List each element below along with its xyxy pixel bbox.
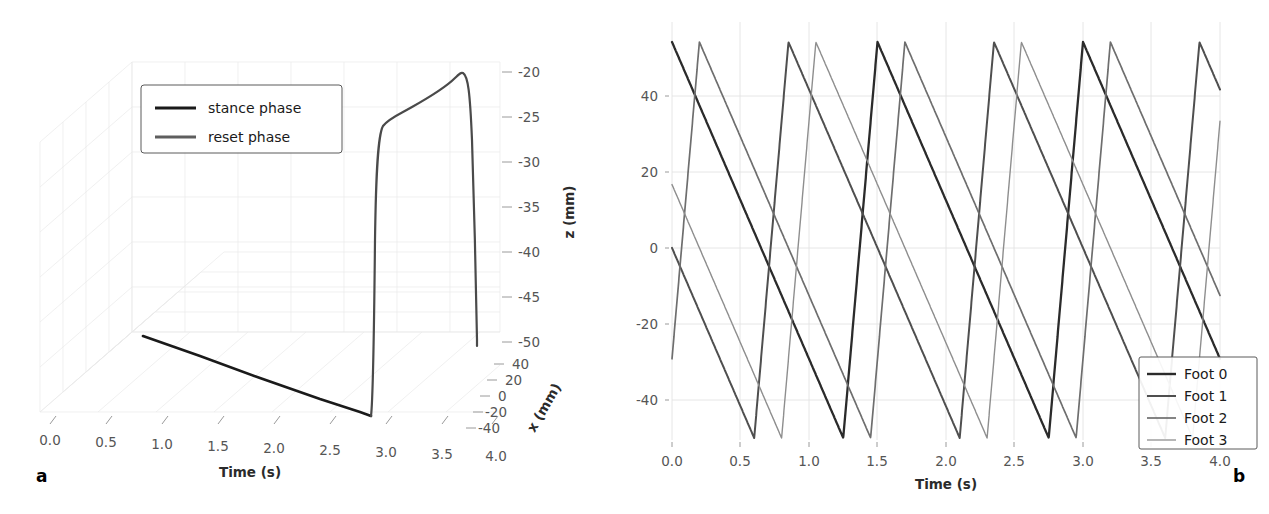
panel-b-xtick-5: 2.5 bbox=[1003, 453, 1024, 469]
panel-b-yaxis: 40 20 0 -20 -40 Foot x-coordinate (mm) bbox=[620, 88, 669, 408]
panel-b-xaxis-title: Time (s) bbox=[915, 476, 977, 492]
panel-a-xaxis-title: Time (s) bbox=[219, 464, 281, 480]
panel-a-zaxis-title: z (mm) bbox=[561, 185, 577, 238]
panel-b-legend-label-foot-1: Foot 1 bbox=[1184, 388, 1228, 404]
panel-a-depthtick-3: -20 bbox=[485, 404, 507, 420]
panel-b-ytick-2: 0 bbox=[649, 240, 658, 256]
panel-b-ytick-3: -20 bbox=[636, 316, 658, 332]
panel-b-legend: Foot 0 Foot 1 Foot 2 Foot 3 bbox=[1139, 357, 1257, 449]
panel-a-zaxis: -20 -25 -30 -35 -40 -45 -50 z (mm) bbox=[502, 64, 577, 350]
panel-a-xtick-2: 1.0 bbox=[151, 436, 172, 452]
panel-a-legend-label-reset: reset phase bbox=[208, 129, 290, 145]
panel-b-foot-coordinates: 40 20 0 -20 -40 Foot x-coordinate (mm) 0… bbox=[620, 0, 1269, 514]
panel-b-xtick-0: 0.0 bbox=[661, 453, 682, 469]
panel-b-xtick-1: 0.5 bbox=[729, 453, 750, 469]
panel-a-xtick-8: 4.0 bbox=[485, 448, 506, 464]
panel-a-3d-trajectory: 0.0 0.5 1.0 1.5 2.0 2.5 3.0 3.5 4.0 Time… bbox=[0, 0, 620, 514]
panel-a-depth-axis-title: x (mm) bbox=[523, 380, 564, 435]
panel-a-xtick-1: 0.5 bbox=[95, 434, 116, 450]
panel-a-ztick-5: -45 bbox=[518, 289, 540, 305]
panel-a-xtick-6: 3.0 bbox=[375, 444, 396, 460]
panel-a-depthtick-1: 20 bbox=[505, 372, 522, 388]
panel-b-ytick-4: -40 bbox=[636, 392, 658, 408]
panel-a-legend-label-stance: stance phase bbox=[208, 100, 301, 116]
panel-b-legend-label-foot-2: Foot 2 bbox=[1184, 410, 1228, 426]
panel-b-xtick-2: 1.0 bbox=[798, 453, 819, 469]
panel-b-legend-label-foot-0: Foot 0 bbox=[1184, 366, 1228, 382]
panel-a-legend: stance phase reset phase bbox=[141, 85, 342, 153]
panel-a-xtick-5: 2.5 bbox=[319, 442, 340, 458]
panel-a-label: a bbox=[36, 466, 47, 486]
panel-a-xtick-3: 1.5 bbox=[207, 438, 228, 454]
panel-a-ztick-4: -40 bbox=[518, 244, 540, 260]
figure-container: 0.0 0.5 1.0 1.5 2.0 2.5 3.0 3.5 4.0 Time… bbox=[0, 0, 1269, 514]
panel-a-depthtick-2: 0 bbox=[498, 388, 507, 404]
trajectory-stance-phase bbox=[143, 336, 371, 416]
panel-b-ytick-0: 40 bbox=[641, 88, 658, 104]
panel-a-xtick-0: 0.0 bbox=[39, 432, 60, 448]
trajectory-reset-phase bbox=[371, 73, 477, 416]
panel-a-depth-axis: 40 20 0 -20 -40 x (mm) bbox=[466, 356, 564, 436]
panel-b-ytick-1: 20 bbox=[641, 164, 658, 180]
grid-left-wall bbox=[40, 62, 132, 412]
panel-a-depthtick-0: 40 bbox=[512, 356, 529, 372]
panel-a-xaxis: 0.0 0.5 1.0 1.5 2.0 2.5 3.0 3.5 4.0 Time… bbox=[39, 416, 506, 480]
panel-a-xtick-4: 2.0 bbox=[263, 440, 284, 456]
panel-a-xtick-7: 3.5 bbox=[431, 446, 452, 462]
panel-b-legend-label-foot-3: Foot 3 bbox=[1184, 432, 1228, 448]
panel-b-xtick-8: 4.0 bbox=[1209, 453, 1230, 469]
panel-a-ztick-0: -20 bbox=[518, 64, 540, 80]
panel-b-svg: 40 20 0 -20 -40 Foot x-coordinate (mm) 0… bbox=[620, 0, 1269, 514]
panel-a-ztick-3: -35 bbox=[518, 199, 540, 215]
panel-a-ztick-2: -30 bbox=[518, 154, 540, 170]
panel-b-xtick-3: 1.5 bbox=[866, 453, 887, 469]
panel-b-xtick-4: 2.0 bbox=[935, 453, 956, 469]
panel-a-depthtick-4: -40 bbox=[478, 420, 500, 436]
panel-a-ztick-6: -50 bbox=[518, 334, 540, 350]
panel-b-xtick-7: 3.5 bbox=[1140, 453, 1161, 469]
panel-b-xtick-6: 3.0 bbox=[1072, 453, 1093, 469]
panel-a-ztick-1: -25 bbox=[518, 109, 540, 125]
panel-a-svg: 0.0 0.5 1.0 1.5 2.0 2.5 3.0 3.5 4.0 Time… bbox=[0, 0, 620, 514]
panel-b-label: b bbox=[1233, 466, 1245, 486]
